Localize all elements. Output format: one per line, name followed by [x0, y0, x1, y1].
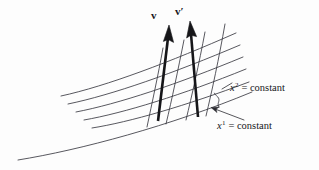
vector-v-prime-arrow — [187, 21, 198, 117]
x2-curve-5 — [61, 33, 236, 96]
vector-v-arrow — [158, 25, 174, 121]
x2-leader-stroke — [222, 83, 232, 89]
vector-v-prime-arrowhead — [187, 21, 197, 38]
x1-label-leader — [211, 107, 244, 120]
vector-v-shaft — [158, 38, 168, 121]
x1-curve-2 — [166, 40, 184, 124]
figure-canvas: v v′ x2=constant x1=constant — [0, 0, 319, 170]
x2-leader-hook — [214, 93, 219, 107]
vector-v-arrowhead — [163, 25, 173, 42]
x1-curve-4 — [206, 24, 225, 116]
coordinate-grid-diagram — [0, 0, 319, 170]
baseline-curve — [18, 92, 252, 160]
x2-curve-2 — [84, 69, 246, 120]
x1-curve-1 — [147, 48, 163, 127]
x1-leader-shaft — [215, 109, 244, 120]
